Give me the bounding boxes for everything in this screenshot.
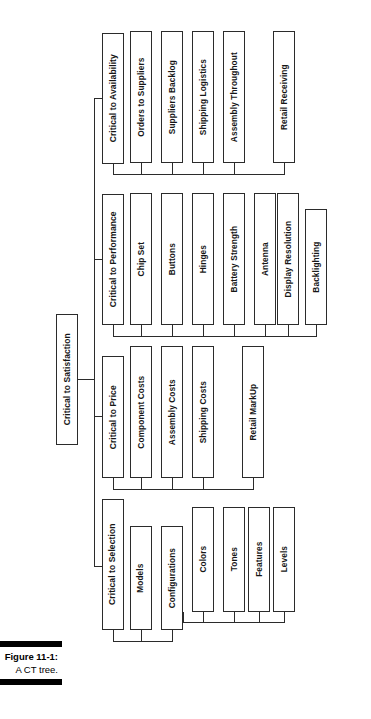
node-critical-to-availability[interactable]: Critical to Availability <box>102 33 124 164</box>
node-critical-to-selection[interactable]: Critical to Selection <box>102 499 124 630</box>
connector-performance-drop-6 <box>288 325 289 337</box>
connector-root-stub <box>78 379 94 380</box>
node-label: Colors <box>199 546 207 573</box>
node-retail-receiving[interactable]: Retail Receiving <box>273 31 295 163</box>
connector-performance-drop-3 <box>203 325 204 337</box>
connector-configurations-drop-1 <box>203 612 204 623</box>
figure-number: Figure 11-1: <box>0 650 58 663</box>
connector-performance-drop-7 <box>316 325 317 337</box>
node-component-costs[interactable]: Component Costs <box>130 346 152 478</box>
node-hinges[interactable]: Hinges <box>192 193 214 325</box>
node-label: Chip Set <box>137 242 145 276</box>
connector-availability-drop-2 <box>172 163 173 175</box>
connector-configurations-drop-4 <box>284 612 285 623</box>
connector-availability-drop-5 <box>284 163 285 175</box>
node-label: Assembly Throughout <box>230 52 238 142</box>
node-label: Tones <box>230 547 238 571</box>
node-label: Component Costs <box>137 376 145 449</box>
connector-price-drop-4 <box>253 478 254 490</box>
connector-configurations-drop-3 <box>259 612 260 623</box>
node-label: Orders to Suppliers <box>137 57 145 136</box>
connector-performance-stem <box>113 325 114 337</box>
node-configurations[interactable]: Configurations <box>161 526 183 630</box>
node-display-resolution[interactable]: Display Resolution <box>277 193 299 325</box>
connector-availability-drop-3 <box>203 163 204 175</box>
connector-configurations-stem <box>183 612 184 623</box>
node-critical-to-performance[interactable]: Critical to Performance <box>102 194 124 325</box>
connector-performance-drop-2 <box>172 325 173 337</box>
node-label: Suppliers Backlog <box>168 60 176 134</box>
node-shipping-logistics[interactable]: Shipping Logistics <box>192 31 214 163</box>
connector-availability-drop-1 <box>141 163 142 175</box>
node-label: Levels <box>280 546 288 572</box>
node-label: Critical to Performance <box>109 212 118 308</box>
node-label: Critical to Selection <box>109 524 118 605</box>
node-suppliers-backlog[interactable]: Suppliers Backlog <box>161 31 183 163</box>
connector-availability-drop-4 <box>234 163 235 175</box>
node-colors[interactable]: Colors <box>192 507 214 612</box>
node-models[interactable]: Models <box>130 526 152 630</box>
node-label: Buttons <box>168 243 176 275</box>
node-buttons[interactable]: Buttons <box>161 193 183 325</box>
connector-price-bus <box>113 489 253 490</box>
node-label: Shipping Costs <box>199 381 207 443</box>
node-label: Critical to Price <box>109 385 118 449</box>
figure-title: A CT tree. <box>0 663 58 676</box>
connector-price-drop-1 <box>141 478 142 490</box>
node-label: Display Resolution <box>284 221 292 297</box>
node-label: Configurations <box>168 548 176 608</box>
node-label: Hinges <box>199 245 207 273</box>
node-label: Models <box>137 563 145 592</box>
connector-selection-stem <box>113 630 114 642</box>
connector-selection-drop-2 <box>172 630 173 642</box>
caption-rule-bottom <box>0 679 62 685</box>
node-levels[interactable]: Levels <box>273 507 295 612</box>
connector-selection-drop-1 <box>141 630 142 642</box>
node-retail-markup[interactable]: Retail MarkUp <box>242 346 264 478</box>
node-assembly-throughout[interactable]: Assembly Throughout <box>223 31 245 163</box>
node-tones[interactable]: Tones <box>223 507 245 612</box>
node-backlighting[interactable]: Backlighting <box>305 209 327 325</box>
node-label: Backlighting <box>312 241 320 292</box>
node-battery-strength[interactable]: Battery Strength <box>223 193 245 325</box>
node-label: Battery Strength <box>230 226 238 293</box>
node-antenna[interactable]: Antenna <box>254 193 276 325</box>
node-assembly-costs[interactable]: Assembly Costs <box>161 346 183 478</box>
node-critical-to-price[interactable]: Critical to Price <box>102 356 124 478</box>
figure-caption: Figure 11-1: A CT tree. <box>0 641 62 685</box>
connector-configurations-drop-2 <box>234 612 235 623</box>
connector-availability-stem <box>113 163 114 175</box>
node-label: Retail MarkUp <box>249 384 257 441</box>
connector-performance-drop-1 <box>141 325 142 337</box>
connector-performance-drop-5 <box>265 325 266 337</box>
node-label: Critical to Availability <box>109 54 118 142</box>
connector-performance-bus <box>113 336 316 337</box>
connector-root-spine <box>94 98 95 566</box>
connector-availability-bus <box>113 174 284 175</box>
node-label: Features <box>255 542 263 577</box>
connector-price-drop-2 <box>172 478 173 490</box>
caption-text: Figure 11-1: A CT tree. <box>0 647 62 679</box>
node-label: Shipping Logistics <box>199 59 207 135</box>
node-label: Antenna <box>261 242 269 276</box>
node-label: Assembly Costs <box>168 379 176 445</box>
node-label: Critical to Satisfaction <box>63 333 72 425</box>
connector-price-drop-3 <box>203 478 204 490</box>
node-features[interactable]: Features <box>248 507 270 612</box>
node-orders-to-suppliers[interactable]: Orders to Suppliers <box>130 31 152 163</box>
connector-price-stem <box>113 478 114 490</box>
node-shipping-costs[interactable]: Shipping Costs <box>192 346 214 478</box>
node-label: Retail Receiving <box>280 64 288 130</box>
connector-performance-drop-4 <box>234 325 235 337</box>
node-chip-set[interactable]: Chip Set <box>130 193 152 325</box>
connector-selection-bus <box>113 641 173 642</box>
node-critical-to-satisfaction[interactable]: Critical to Satisfaction <box>56 314 78 445</box>
